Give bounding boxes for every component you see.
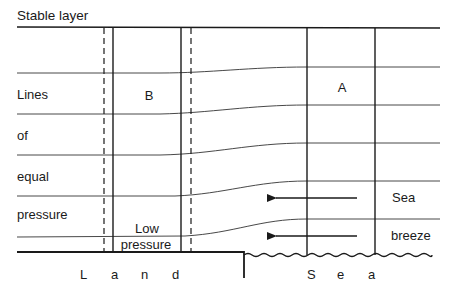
isobar-label-pressure: pressure: [17, 208, 68, 221]
diagram-lines: [0, 0, 451, 296]
low-pressure-label-line2: pressure: [121, 238, 172, 251]
isobar-label-equal: equal: [17, 170, 49, 183]
sea-letter-s: S: [307, 268, 316, 281]
stable-layer-label: Stable layer: [17, 9, 88, 23]
land-surface: [17, 252, 244, 278]
isobar-label-of: of: [17, 129, 28, 142]
land-letter-a: a: [111, 268, 118, 281]
isobar-3: [17, 143, 440, 155]
sea-breeze-label-sea: Sea: [392, 191, 415, 204]
isobar-2: [17, 105, 440, 114]
land-letter-n: n: [141, 268, 148, 281]
isobar-1: [17, 67, 440, 73]
sea-breeze-label-breeze: breeze: [391, 229, 431, 242]
sea-letter-a: a: [368, 268, 375, 281]
sea-letter-e: e: [337, 268, 344, 281]
column-a-label: A: [338, 81, 347, 94]
isobar-5: [17, 219, 440, 237]
column-b-label: B: [145, 89, 154, 102]
land-letter-l: L: [80, 268, 87, 281]
sea-breeze-diagram: Stable layer Lines of equal pressure B A…: [0, 0, 451, 296]
land-letter-d: d: [172, 268, 179, 281]
isobar-4: [17, 181, 440, 196]
stable-layer-line: [17, 27, 440, 28]
low-pressure-label-line1: Low: [135, 222, 159, 235]
sea-surface: [244, 254, 432, 257]
isobar-label-lines: Lines: [17, 88, 48, 101]
